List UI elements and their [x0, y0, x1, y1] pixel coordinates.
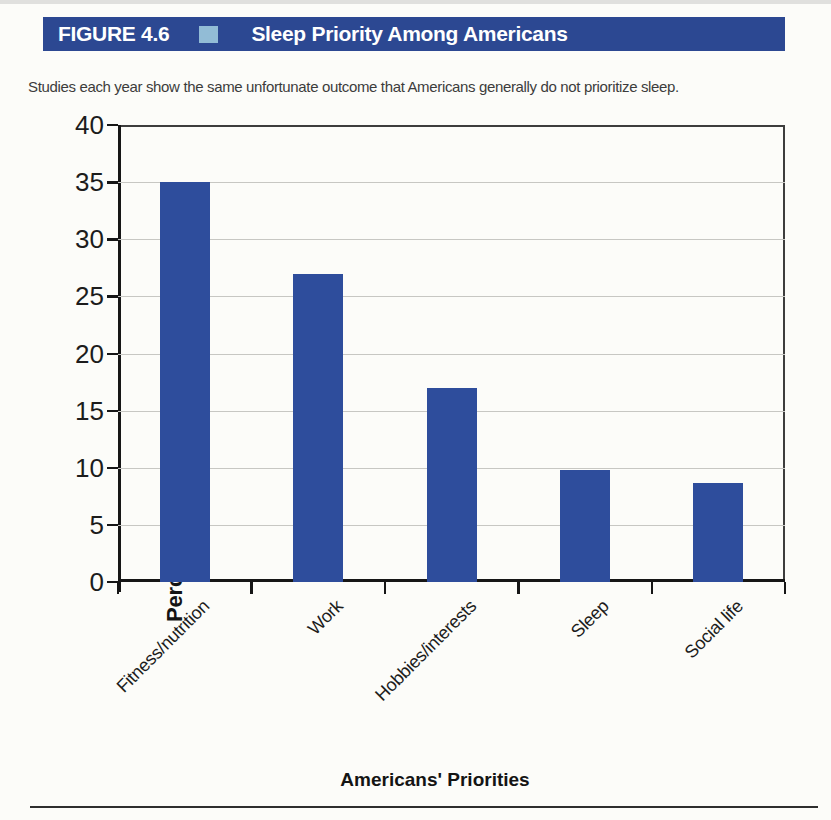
- plot-area: Percentage of Respondents: [118, 125, 785, 582]
- figure-number-label: FIGURE 4.6: [58, 22, 169, 46]
- x-category-label-social-life: Social life: [680, 596, 747, 663]
- y-tick-40: [107, 124, 118, 126]
- x-category-label-work: Work: [303, 596, 346, 639]
- y-tick-35: [107, 181, 118, 183]
- x-axis-title: Americans' Priorities: [135, 769, 735, 791]
- y-tick-10: [107, 467, 118, 469]
- y-tick-25: [107, 295, 118, 297]
- x-category-label-hobbies-interests: Hobbies/interests: [371, 596, 481, 706]
- figure-header-bar: FIGURE 4.6 Sleep Priority Among American…: [43, 17, 785, 51]
- x-category-label-sleep: Sleep: [567, 596, 613, 642]
- x-tick-3: [517, 582, 519, 594]
- x-tick-0: [117, 582, 119, 594]
- grid-line-35: [118, 182, 785, 183]
- y-tick-label-35: 35: [38, 169, 104, 195]
- grid-line-30: [118, 239, 785, 240]
- figure-page: FIGURE 4.6 Sleep Priority Among American…: [0, 0, 831, 820]
- y-tick-label-0: 0: [38, 569, 104, 595]
- y-tick-30: [107, 238, 118, 240]
- x-tick-1: [250, 582, 252, 594]
- y-tick-20: [107, 353, 118, 355]
- y-tick-5: [107, 524, 118, 526]
- y-tick-label-25: 25: [38, 283, 104, 309]
- bar-fitness-nutrition: [160, 182, 210, 582]
- y-tick-label-20: 20: [38, 341, 104, 367]
- x-tick-2: [384, 582, 386, 594]
- grid-line-20: [118, 354, 785, 355]
- header-square-icon: [199, 26, 218, 43]
- y-tick-label-5: 5: [38, 512, 104, 538]
- y-tick-label-15: 15: [38, 398, 104, 424]
- x-tick-5: [784, 582, 786, 594]
- y-tick-label-40: 40: [38, 112, 104, 138]
- plot-border-top: [118, 125, 785, 127]
- grid-line-25: [118, 296, 785, 297]
- bar-work: [293, 274, 343, 582]
- page-edge-artifact: [0, 0, 831, 4]
- x-tick-4: [651, 582, 653, 594]
- bottom-rule: [30, 806, 818, 808]
- figure-title: Sleep Priority Among Americans: [251, 22, 567, 46]
- bar-hobbies-interests: [427, 388, 477, 582]
- figure-caption: Studies each year show the same unfortun…: [28, 78, 679, 95]
- y-axis-line: [118, 125, 121, 592]
- y-tick-label-30: 30: [38, 226, 104, 252]
- y-tick-label-10: 10: [38, 455, 104, 481]
- bar-sleep: [560, 470, 610, 582]
- y-tick-15: [107, 410, 118, 412]
- bar-social-life: [693, 483, 743, 582]
